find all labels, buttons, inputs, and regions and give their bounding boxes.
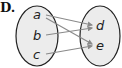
range-element-d: d (96, 18, 105, 33)
range-element-e: e (96, 38, 104, 53)
domain-element-c: c (33, 47, 40, 62)
domain-element-b: b (33, 28, 41, 43)
mapping-diagram: D. a b c d e (0, 0, 122, 68)
range-ellipse (80, 6, 120, 66)
option-label: D. (0, 0, 15, 15)
domain-element-a: a (33, 7, 41, 22)
